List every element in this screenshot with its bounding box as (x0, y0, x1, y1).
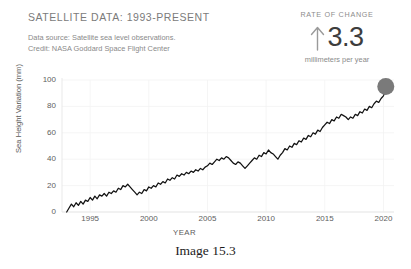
current-value-marker (377, 78, 394, 95)
data-line-sea-height (67, 91, 386, 212)
line-chart-plot: Sea Height Variation (mm) 020406080100 1… (0, 0, 411, 240)
x-axis-label-text: YEAR (173, 228, 196, 237)
chart-canvas (0, 0, 411, 240)
figure-caption: Image 15.3 (0, 243, 411, 259)
sea-level-figure: SATELLITE DATA: 1993-PRESENT Data source… (0, 0, 411, 240)
x-axis-label: YEAR (0, 228, 411, 237)
